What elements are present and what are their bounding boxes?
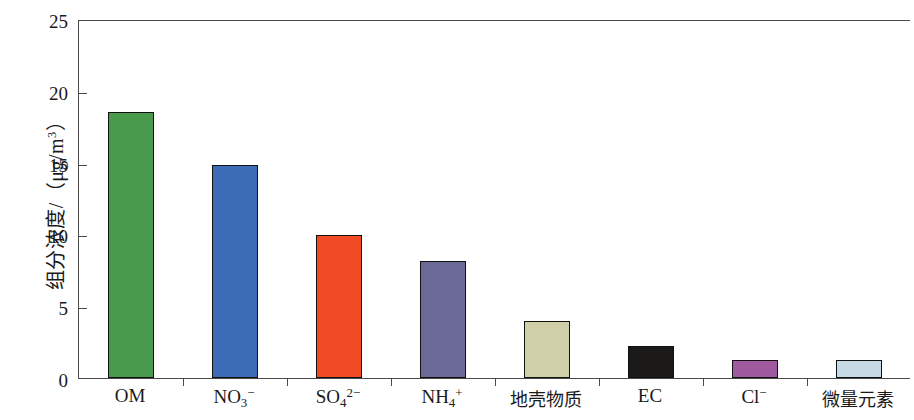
x-axis-label-superscript: 2−	[347, 385, 361, 400]
y-axis-tick-label: 10	[49, 227, 68, 246]
x-axis-label-base: NH	[421, 386, 448, 407]
x-axis-tick	[287, 378, 288, 386]
x-axis-label-base: 地壳物质	[510, 389, 582, 410]
y-axis-tick-label: 25	[49, 12, 68, 31]
y-axis-tick	[79, 93, 87, 94]
x-axis-label-base: EC	[638, 385, 662, 406]
bar-SO42-	[316, 235, 362, 378]
bar-Cl-	[732, 360, 778, 378]
x-axis-label-superscript: −	[247, 385, 254, 400]
x-axis-label-EC: EC	[638, 385, 662, 407]
x-axis-label-superscript: −	[759, 385, 766, 400]
bar-NO3-	[212, 165, 258, 378]
x-axis-label-NO3-: NO3−	[213, 385, 254, 411]
x-axis-tick	[807, 378, 808, 386]
bar-NH4+	[420, 261, 466, 378]
x-axis-label-OM: OM	[115, 385, 146, 407]
bar-地壳物质	[524, 321, 570, 378]
y-axis-tick-label: 5	[59, 299, 69, 318]
x-axis-tick	[599, 378, 600, 386]
x-axis-label-superscript: +	[455, 385, 462, 400]
y-axis-tick-label: 15	[49, 155, 68, 174]
chart-figure: 组分浓度/（μg/m3） 0510152025 OMNO3−SO42−NH4+地…	[0, 0, 914, 420]
x-axis-tick	[391, 378, 392, 386]
y-axis-tick-label: 20	[49, 83, 68, 102]
x-axis-label-base: NO	[213, 386, 240, 407]
x-axis-label-SO42-: SO42−	[316, 385, 360, 411]
plot-area: 0510152025	[78, 20, 910, 379]
x-axis-tick	[183, 378, 184, 386]
y-axis-unit-exponent: 3	[45, 131, 59, 138]
y-axis-tick-label: 0	[59, 371, 69, 390]
x-axis-label-微量元素: 微量元素	[822, 385, 894, 411]
x-axis-tick	[703, 378, 704, 386]
x-axis-label-base: OM	[115, 385, 146, 406]
y-axis-tick	[79, 308, 87, 309]
x-axis-label-Cl-: Cl−	[741, 385, 766, 408]
x-axis-tick	[495, 378, 496, 386]
x-axis-label-base: SO	[316, 386, 340, 407]
x-axis-label-base: 微量元素	[822, 389, 894, 410]
x-axis-label-base: Cl	[741, 386, 759, 407]
x-axis-label-地壳物质: 地壳物质	[510, 385, 582, 411]
y-axis-title-suffix: ）	[45, 111, 67, 132]
x-axis-label-NH4+: NH4+	[421, 385, 462, 411]
y-axis-tick	[79, 165, 87, 166]
bar-OM	[108, 112, 154, 378]
bar-微量元素	[836, 360, 882, 378]
bar-EC	[628, 346, 674, 378]
y-axis-tick	[79, 236, 87, 237]
